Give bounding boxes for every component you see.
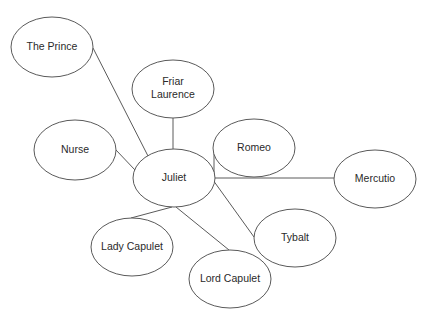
node-label: Lord Capulet	[200, 272, 260, 284]
node-tybalt: Tybalt	[254, 209, 336, 267]
node-label: Juliet	[162, 171, 187, 183]
node-juliet: Juliet	[133, 149, 215, 207]
node-label: Tybalt	[281, 231, 309, 243]
node-label: Lady Capulet	[101, 240, 163, 252]
node-label: Mercutio	[355, 172, 395, 184]
node-label: Laurence	[151, 88, 195, 100]
node-nurse: Nurse	[34, 120, 116, 180]
edge-juliet-nurse	[116, 150, 135, 170]
edge-juliet-lord-capulet	[176, 207, 229, 250]
edge-juliet-lady-capulet	[131, 207, 172, 218]
node-label: Friar	[162, 75, 184, 87]
node-label: Romeo	[237, 141, 271, 153]
character-network-diagram: The PrinceFriarLaurenceNurseJulietRomeoM…	[0, 0, 427, 317]
node-lord-capulet: Lord Capulet	[189, 250, 271, 308]
node-mercutio: Mercutio	[334, 150, 416, 208]
edge-juliet-tybalt	[213, 180, 254, 237]
node-lady-capulet: Lady Capulet	[91, 218, 173, 276]
node-prince: The Prince	[11, 17, 93, 77]
node-label: Nurse	[61, 143, 89, 155]
node-romeo: Romeo	[213, 119, 295, 177]
node-label: The Prince	[27, 40, 78, 52]
node-friar: FriarLaurence	[132, 60, 214, 118]
